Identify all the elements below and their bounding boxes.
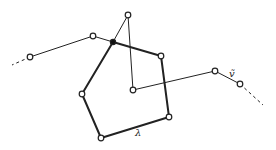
- vertex-R: [212, 68, 218, 74]
- vertex-T: [125, 12, 131, 18]
- vertex-E: [98, 135, 104, 141]
- vertex-I: [130, 87, 136, 93]
- label-v-tilde: ṽ: [229, 68, 235, 79]
- vertex-D: [166, 114, 172, 120]
- label-lambda: λ: [134, 127, 141, 138]
- vertex-B: [90, 33, 96, 39]
- vertex-C: [158, 53, 164, 59]
- filled-vertex-J: [110, 39, 115, 44]
- path-cycle-diagram: ṽ λ: [0, 0, 276, 150]
- vertex-S: [237, 81, 243, 87]
- vertex-F: [79, 91, 85, 97]
- vertex-A: [27, 54, 33, 60]
